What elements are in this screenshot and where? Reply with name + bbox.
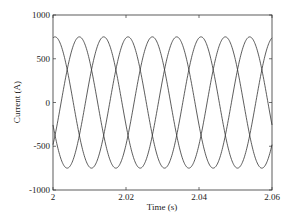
current-waveform-chart: 22.022.042.0610005000-500-1000 Time (s) … [0, 0, 295, 222]
axes-box [53, 15, 272, 190]
y-tick-label: -1000 [29, 185, 50, 195]
x-axis-label: Time (s) [147, 202, 177, 212]
x-tick-label: 2.06 [264, 192, 280, 202]
series-line-1 [53, 37, 272, 168]
x-tick-label: 2.02 [118, 192, 134, 202]
series-line-2 [53, 37, 272, 168]
y-axis-label: Current (A) [12, 81, 22, 123]
plot-lines [53, 37, 272, 168]
series-line-3 [53, 37, 272, 168]
x-tick-label: 2.04 [191, 192, 207, 202]
y-tick-label: 0 [46, 98, 51, 108]
y-tick-label: 500 [37, 54, 51, 64]
y-tick-label: 1000 [32, 10, 51, 20]
x-tick-label: 2 [51, 192, 56, 202]
y-tick-label: -500 [34, 141, 51, 151]
